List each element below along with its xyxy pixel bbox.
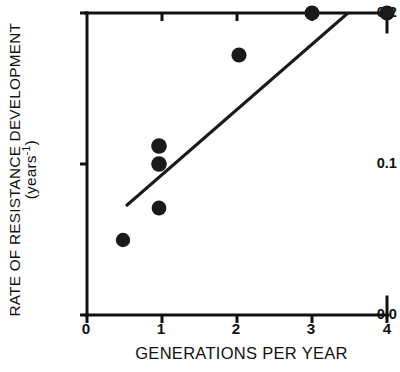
data-point (379, 5, 394, 20)
data-point (151, 138, 167, 154)
data-point (151, 156, 167, 172)
data-point (231, 47, 246, 62)
data-point (152, 201, 167, 216)
data-point (116, 233, 130, 247)
x-axis-label: GENERATIONS PER YEAR (86, 344, 397, 363)
data-point (304, 5, 319, 20)
regression-line (126, 13, 348, 206)
data-points (116, 5, 395, 247)
